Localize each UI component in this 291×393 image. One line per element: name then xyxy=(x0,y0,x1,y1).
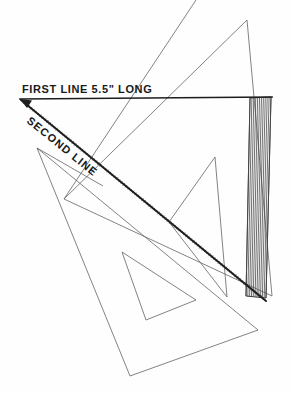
figure-root: FIRST LINE 5.5" LONG SECOND LINE xyxy=(0,0,291,393)
first-line-label: FIRST LINE 5.5" LONG xyxy=(22,83,152,95)
drafting-figure-canvas: FIRST LINE 5.5" LONG SECOND LINE xyxy=(0,0,291,393)
